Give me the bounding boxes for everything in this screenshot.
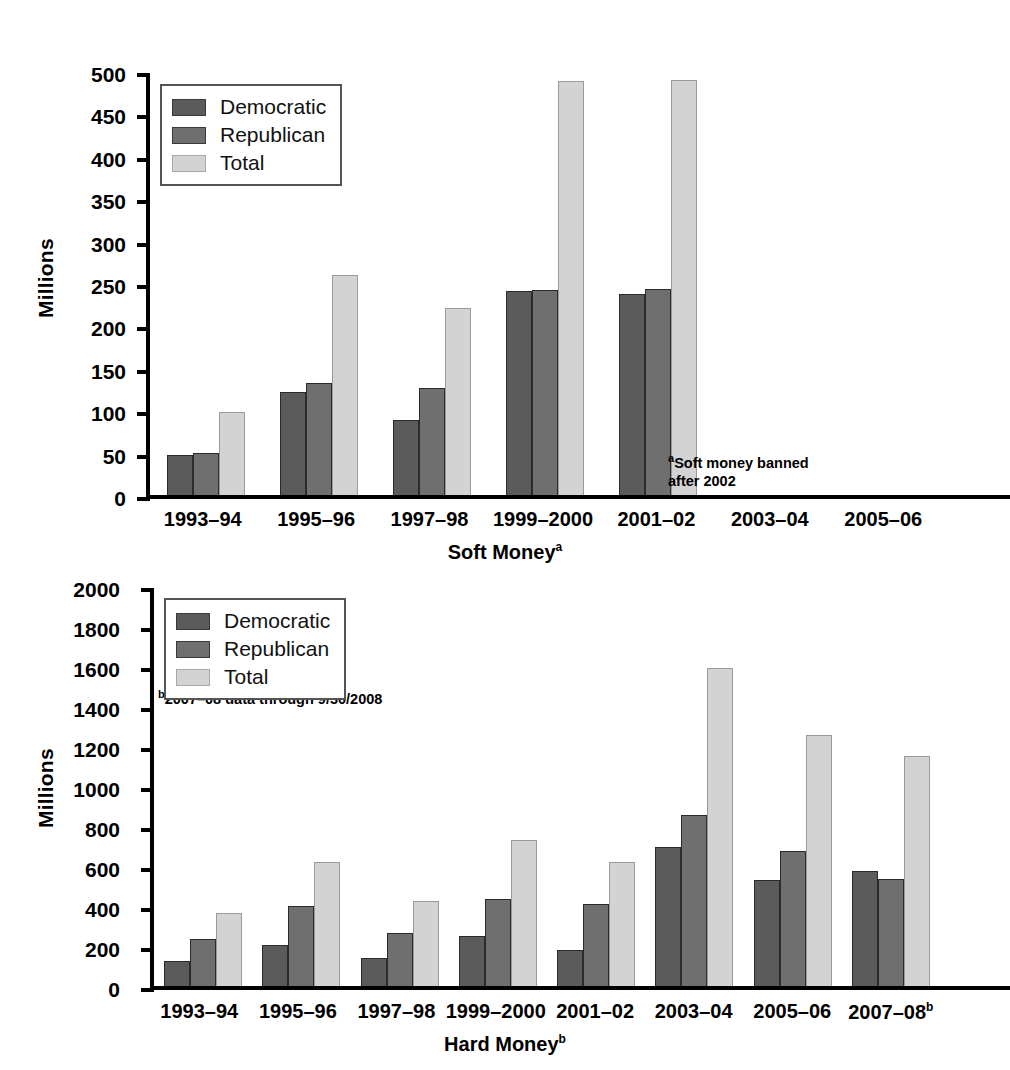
legend-item-democratic[interactable]: Democratic (176, 607, 330, 635)
bar-republican[interactable] (387, 933, 413, 986)
y-tick-mark (141, 788, 154, 792)
bar-republican[interactable] (288, 906, 314, 986)
bar-democratic[interactable] (852, 871, 878, 986)
y-tick-mark (141, 628, 154, 632)
y-tick-mark (137, 285, 150, 289)
x-axis-extension-hard-money (938, 986, 1010, 990)
legend-label-democratic: Democratic (224, 609, 330, 633)
bar-group (645, 590, 743, 986)
y-tick-mark (137, 73, 150, 77)
legend-swatch-republican-icon (176, 641, 210, 658)
y-tick-mark (137, 115, 150, 119)
bar-democratic[interactable] (459, 936, 485, 986)
y-tick-label: 800 (85, 819, 120, 840)
x-tick-label: 1995–96 (249, 1000, 348, 1024)
bar-democratic[interactable] (619, 294, 645, 495)
x-tick-label: 2003–04 (713, 508, 826, 531)
bar-democratic[interactable] (164, 961, 190, 986)
legend-item-total[interactable]: Total (176, 663, 330, 691)
y-tick-label: 200 (91, 318, 126, 339)
bar-group (376, 75, 489, 495)
y-axis-tick-labels-soft-money: 500450400350300250200150100500 (34, 75, 126, 499)
y-tick-mark (137, 243, 150, 247)
y-tick-mark (141, 908, 154, 912)
bar-total[interactable] (558, 81, 584, 495)
legend-label-democratic: Democratic (220, 95, 326, 119)
bar-democratic[interactable] (754, 880, 780, 986)
y-tick-label: 1000 (73, 779, 120, 800)
legend-label-total: Total (224, 665, 268, 689)
bar-total[interactable] (314, 862, 340, 986)
y-tick-label: 450 (91, 106, 126, 127)
bar-group (601, 75, 714, 495)
bar-group (449, 590, 547, 986)
bar-group (827, 75, 940, 495)
y-tick-label: 600 (85, 859, 120, 880)
y-tick-mark (137, 455, 150, 459)
legend-swatch-total-icon (172, 155, 206, 172)
footnote-soft-money: aSoft money banned after 2002 (668, 452, 898, 490)
y-tick-label: 1200 (73, 739, 120, 760)
x-tick-label: 1997–98 (347, 1000, 446, 1024)
bar-republican[interactable] (419, 388, 445, 495)
legend-item-total[interactable]: Total (172, 149, 326, 177)
y-tick-label: 50 (103, 446, 126, 467)
bar-total[interactable] (216, 913, 242, 986)
y-tick-mark (137, 370, 150, 374)
bar-republican[interactable] (485, 899, 511, 986)
legend-label-total: Total (220, 151, 264, 175)
y-tick-mark (137, 200, 150, 204)
x-axis-title-hard-money: Hard Moneyb (0, 1032, 1010, 1056)
legend-swatch-democratic-icon (176, 613, 210, 630)
bar-total[interactable] (332, 275, 358, 495)
bar-republican[interactable] (645, 289, 671, 495)
bar-total[interactable] (413, 901, 439, 986)
x-axis-extension-soft-money (938, 495, 1010, 499)
legend-swatch-republican-icon (172, 127, 206, 144)
bar-republican[interactable] (190, 939, 216, 986)
legend-item-republican[interactable]: Republican (176, 635, 330, 663)
bar-total[interactable] (904, 756, 930, 986)
chart-hard-money: Millions 2000180016001400120010008006004… (0, 560, 1010, 1070)
y-tick-label: 150 (91, 361, 126, 382)
x-tick-label: 2007–08b (841, 1000, 940, 1024)
bar-republican[interactable] (878, 879, 904, 986)
bar-democratic[interactable] (280, 392, 306, 495)
y-tick-mark (141, 868, 154, 872)
bar-total[interactable] (806, 735, 832, 986)
legend-item-republican[interactable]: Republican (172, 121, 326, 149)
bar-democratic[interactable] (506, 291, 532, 495)
y-tick-mark (137, 412, 150, 416)
bar-total[interactable] (219, 412, 245, 495)
bar-republican[interactable] (306, 383, 332, 495)
y-tick-label: 350 (91, 191, 126, 212)
bar-republican[interactable] (193, 453, 219, 495)
bar-total[interactable] (707, 668, 733, 986)
y-tick-mark (141, 948, 154, 952)
footnote-soft-money-line1: Soft money banned (674, 455, 809, 471)
bar-total[interactable] (609, 862, 635, 986)
bar-democratic[interactable] (393, 420, 419, 495)
y-tick-label: 0 (114, 488, 126, 509)
y-tick-mark (137, 497, 150, 501)
bar-democratic[interactable] (655, 847, 681, 986)
x-axis-tick-labels-soft-money: 1993–941995–961997–981999–20002001–02200… (146, 508, 940, 531)
y-tick-mark (141, 588, 154, 592)
bar-total[interactable] (511, 840, 537, 986)
bar-republican[interactable] (780, 851, 806, 986)
bar-democratic[interactable] (557, 950, 583, 986)
y-tick-mark (141, 668, 154, 672)
y-tick-label: 1400 (73, 699, 120, 720)
legend-hard-money: Democratic Republican Total (164, 598, 346, 700)
y-tick-label: 250 (91, 276, 126, 297)
bar-democratic[interactable] (262, 945, 288, 986)
bar-republican[interactable] (681, 815, 707, 986)
bar-total[interactable] (671, 80, 697, 495)
x-tick-label: 2001–02 (600, 508, 713, 531)
bar-republican[interactable] (532, 290, 558, 495)
bar-democratic[interactable] (167, 455, 193, 495)
bar-republican[interactable] (583, 904, 609, 986)
bar-democratic[interactable] (361, 958, 387, 986)
legend-item-democratic[interactable]: Democratic (172, 93, 326, 121)
bar-total[interactable] (445, 308, 471, 495)
